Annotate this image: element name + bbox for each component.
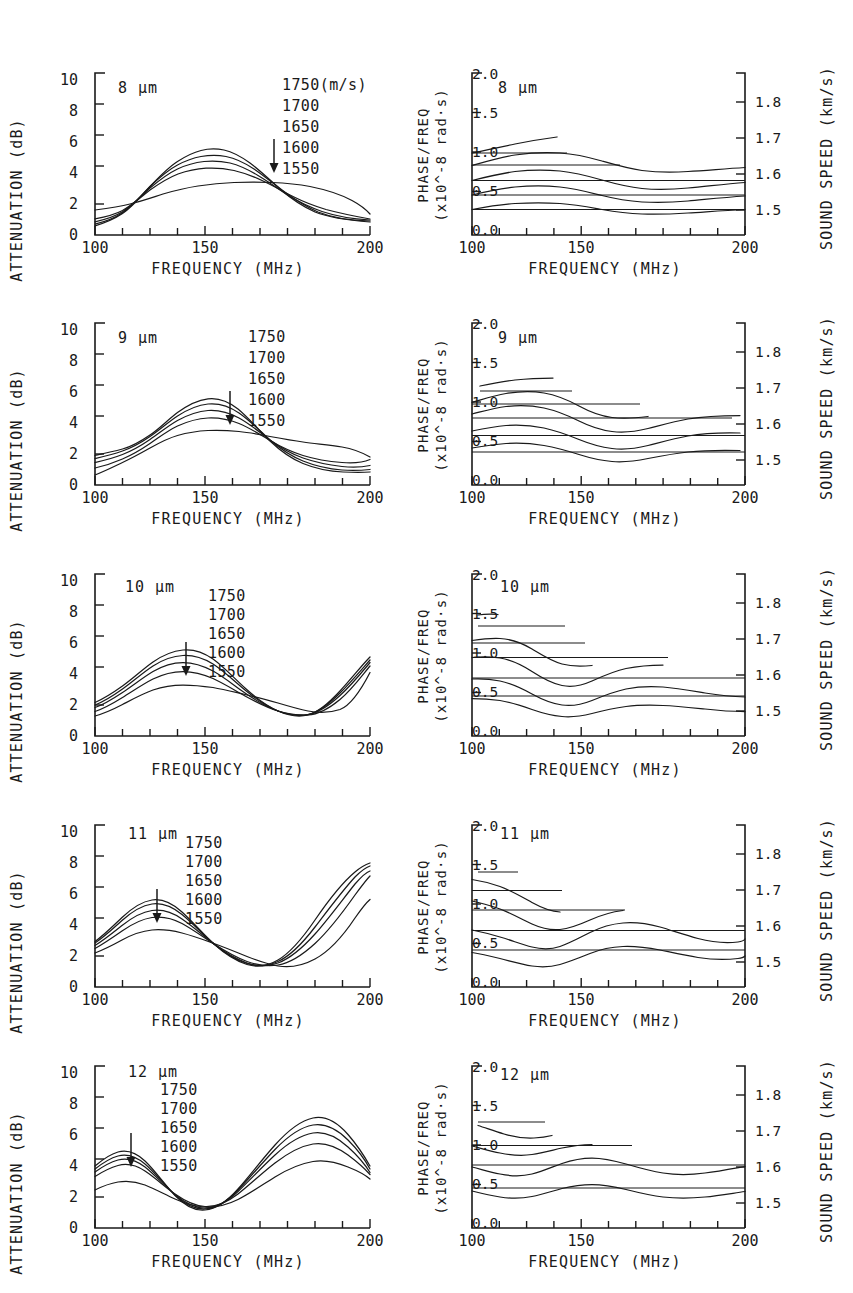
svg-text:PHASE/FREQ: PHASE/FREQ: [415, 859, 431, 954]
svg-text:1.6: 1.6: [755, 667, 781, 683]
svg-text:4: 4: [69, 916, 78, 934]
phase-chart-11um: PHASE/FREQ (x10^-8 rad·s) 2.0 1.5 1.0 0.…: [420, 792, 853, 1032]
svg-text:4: 4: [69, 164, 78, 182]
svg-text:1.6: 1.6: [755, 1159, 781, 1175]
svg-text:10: 10: [60, 823, 78, 841]
x-tick-labels: 100 150 200: [81, 489, 383, 507]
attenuation-panel-10um: ATTENUATION (dB) 10 8 6 4 2 0: [0, 541, 420, 781]
y-axis-title-attenuation: ATTENUATION (dB): [8, 368, 26, 532]
legend-entry-1700: 1700: [185, 853, 223, 871]
svg-text:1.6: 1.6: [755, 166, 781, 182]
svg-text:150: 150: [191, 1232, 218, 1250]
phase-x-tick-labels: 100 150 200: [458, 489, 758, 507]
legend-entry-1750: 1750: [248, 328, 286, 346]
legend-8um: 1750(m/s) 1700 1650 1600 1550: [282, 76, 367, 178]
svg-text:100: 100: [458, 991, 485, 1009]
phase-panel-10um: PHASE/FREQ (x10^-8 rad·s) 2.0 1.5 1.0 0.…: [420, 541, 853, 781]
attenuation-chart-12um: ATTENUATION (dB) 10 8 6 4 2 0: [0, 1033, 420, 1273]
attenuation-chart-9um: ATTENUATION (dB) 10 8 6 4 2 0: [0, 290, 420, 530]
plot-row-9um: ATTENUATION (dB) 10 8 6 4 2 0: [0, 290, 853, 530]
svg-text:1.7: 1.7: [755, 631, 781, 647]
svg-text:(x10^-8 rad·s): (x10^-8 rad·s): [433, 840, 449, 973]
sound-speed-axis-title: SOUND SPEED (km/s): [818, 567, 836, 751]
svg-text:150: 150: [191, 489, 218, 507]
legend-entry-1600: 1600: [160, 1138, 198, 1156]
sound-speed-tick-labels: 1.8 1.7 1.6 1.5: [755, 1087, 781, 1211]
svg-text:1.5: 1.5: [755, 452, 781, 468]
svg-text:0: 0: [69, 226, 78, 244]
sample-label-10um: 10 µm: [500, 578, 550, 596]
y-tick-labels: 10 8 6 4 2 0: [60, 823, 78, 996]
phase-x-tick-labels: 100 150 200: [458, 740, 758, 758]
svg-text:1.5: 1.5: [755, 954, 781, 970]
svg-text:150: 150: [567, 489, 594, 507]
phase-panel-9um: PHASE/FREQ (x10^-8 rad·s) 2.0 1.5 1.0 0.…: [420, 290, 853, 530]
phase-panel-8um: PHASE/FREQ (x10^-8 rad·s) 2.0 1.5 1.0 0.…: [420, 40, 853, 280]
y-axis-title-attenuation: ATTENUATION (dB): [8, 118, 26, 282]
sample-label-11um: 11 µm: [128, 825, 178, 843]
svg-text:100: 100: [81, 489, 108, 507]
x-tick-labels: 100 150 200: [81, 991, 383, 1009]
sample-label-12um: 12 µm: [128, 1063, 178, 1081]
svg-text:8: 8: [69, 102, 78, 120]
legend-entry-1700: 1700: [282, 97, 320, 115]
svg-text:200: 200: [356, 740, 383, 758]
x-tick-labels: 100 150 200: [81, 1232, 383, 1250]
svg-text:2.0: 2.0: [472, 567, 498, 583]
svg-text:2: 2: [69, 696, 78, 714]
legend-entry-1650: 1650: [248, 370, 286, 388]
phase-x-tick-labels: 100 150 200: [458, 991, 758, 1009]
y-axis-title-phase: PHASE/FREQ (x10^-8 rad·s): [415, 589, 449, 722]
attenuation-chart-11um: ATTENUATION (dB) 10 8 6 4 2 0: [0, 792, 420, 1032]
svg-text:200: 200: [731, 239, 758, 257]
x-axis-title: FREQUENCY (MHz): [528, 1012, 681, 1030]
svg-text:2: 2: [69, 195, 78, 213]
svg-text:1.5: 1.5: [755, 202, 781, 218]
svg-text:150: 150: [191, 740, 218, 758]
plot-row-11um: ATTENUATION (dB) 10 8 6 4 2 0: [0, 792, 853, 1032]
legend-entry-1550: 1550: [282, 160, 320, 178]
svg-text:100: 100: [81, 1232, 108, 1250]
legend-10um: 1750 1700 1650 1600 1550: [208, 587, 246, 681]
svg-text:(x10^-8 rad·s): (x10^-8 rad·s): [433, 88, 449, 221]
svg-text:100: 100: [458, 239, 485, 257]
phase-panel-11um: PHASE/FREQ (x10^-8 rad·s) 2.0 1.5 1.0 0.…: [420, 792, 853, 1032]
y-axis-title-phase: PHASE/FREQ (x10^-8 rad·s): [415, 338, 449, 471]
svg-text:100: 100: [458, 489, 485, 507]
attenuation-panel-12um: ATTENUATION (dB) 10 8 6 4 2 0: [0, 1033, 420, 1273]
x-tick-labels: 100 150 200: [81, 239, 383, 257]
svg-text:1.8: 1.8: [755, 595, 781, 611]
down-arrow-icon: [127, 1133, 136, 1167]
svg-text:1.6: 1.6: [755, 416, 781, 432]
attenuation-panel-9um: ATTENUATION (dB) 10 8 6 4 2 0: [0, 290, 420, 530]
plot-row-8um: ATTENUATION (dB) 10 8 6 4 2 0: [0, 40, 853, 280]
svg-text:100: 100: [81, 740, 108, 758]
legend-entry-1600: 1600: [248, 391, 286, 409]
svg-text:200: 200: [356, 991, 383, 1009]
svg-text:2.0: 2.0: [472, 1059, 498, 1075]
x-axis-title: FREQUENCY (MHz): [528, 260, 681, 278]
curve-group: [95, 149, 370, 226]
svg-text:4: 4: [69, 665, 78, 683]
down-arrow-icon: [270, 139, 279, 173]
legend-entry-1750: 1750: [160, 1081, 198, 1099]
y-axis-title-attenuation: ATTENUATION (dB): [8, 1111, 26, 1275]
sound-speed-tick-labels: 1.8 1.7 1.6 1.5: [755, 595, 781, 719]
sample-label-9um: 9 µm: [498, 329, 538, 347]
plot-axes: [472, 574, 745, 736]
phase-x-tick-labels: 100 150 200: [458, 1232, 758, 1250]
legend-entry-1650: 1650: [160, 1119, 198, 1137]
svg-text:1.8: 1.8: [755, 94, 781, 110]
svg-text:6: 6: [69, 885, 78, 903]
sound-speed-axis-title: SOUND SPEED (km/s): [818, 316, 836, 500]
svg-text:2: 2: [69, 947, 78, 965]
sample-label-12um: 12 µm: [500, 1066, 550, 1084]
y-axis-title-attenuation: ATTENUATION (dB): [8, 870, 26, 1034]
figure-panel-grid: ATTENUATION (dB) 10 8 6 4 2 0: [0, 0, 853, 1293]
svg-text:PHASE/FREQ: PHASE/FREQ: [415, 357, 431, 452]
svg-text:150: 150: [567, 239, 594, 257]
sound-speed-axis-title: SOUND SPEED (km/s): [818, 818, 836, 1002]
svg-text:100: 100: [81, 239, 108, 257]
svg-text:(x10^-8 rad·s): (x10^-8 rad·s): [433, 338, 449, 471]
svg-text:1.5: 1.5: [755, 1195, 781, 1211]
